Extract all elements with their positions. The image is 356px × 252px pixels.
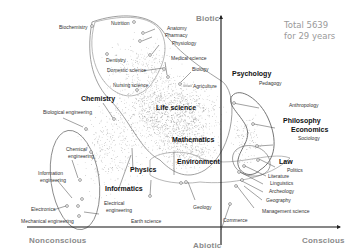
label-mathematics: Mathematics bbox=[172, 136, 214, 143]
label-commerce: Commerce bbox=[223, 218, 247, 223]
label-chemical-engineering-line1: Chemical bbox=[66, 147, 87, 152]
axis-label-nonconscious: Nonconscious bbox=[29, 237, 87, 245]
label-mechanical-engineering: Mechanical engineering bbox=[21, 219, 74, 224]
label-information-engineering-line2: engineering bbox=[40, 178, 66, 183]
label-dentistry: Dentistry bbox=[106, 58, 126, 63]
label-life-science: Life science bbox=[156, 104, 196, 111]
label-economics: Economics bbox=[291, 126, 328, 133]
label-physics: Physics bbox=[130, 166, 156, 173]
label-medical-science: Medical science bbox=[171, 56, 207, 61]
axis-label-conscious: Conscious bbox=[302, 237, 345, 245]
label-information-engineering-line1: Information bbox=[38, 171, 63, 176]
label-biological-engineering: Biological engineering bbox=[43, 110, 92, 115]
label-archeology: Archeology bbox=[269, 189, 294, 194]
label-nursing-science: Nursing science bbox=[113, 83, 149, 88]
label-environment: Environment bbox=[177, 158, 220, 165]
label-physiology: Physiology bbox=[172, 41, 196, 46]
label-geology: Geology bbox=[193, 205, 212, 210]
label-geography: Geography bbox=[266, 198, 291, 203]
label-linguistics: Linguistics bbox=[270, 181, 293, 186]
label-anthropology: Anthropology bbox=[289, 103, 318, 108]
axis-label-biotic: Biotic bbox=[196, 15, 219, 23]
label-politics: Politics bbox=[287, 168, 303, 173]
label-law: Law bbox=[279, 158, 293, 165]
label-electronics: Electronics bbox=[31, 207, 55, 212]
label-biochemistry: Biochemistry bbox=[59, 25, 88, 30]
label-management-science: Management science bbox=[262, 209, 310, 214]
label-domestic-science: Domestic science bbox=[107, 68, 146, 73]
label-electrical-engineering-line1: Electrical bbox=[104, 201, 124, 206]
total-count-note: Total 5639 for 29 years bbox=[284, 20, 335, 41]
knowledge-map-diagram: Total 5639 for 29 years Biotic Abiotic N… bbox=[0, 0, 356, 252]
label-electrical-engineering-line2: engineering bbox=[106, 208, 132, 213]
label-sociology: Sociology bbox=[298, 136, 320, 141]
label-chemical-engineering-line2: engineering bbox=[68, 154, 94, 159]
label-psychology: Psychology bbox=[232, 70, 271, 77]
label-informatics: Informatics bbox=[105, 185, 143, 192]
label-philosophy: Philosophy bbox=[283, 117, 321, 124]
total-period: for 29 years bbox=[284, 31, 335, 42]
label-nutrition: Nutrition bbox=[111, 21, 130, 26]
axis-label-abiotic: Abiotic bbox=[193, 242, 222, 250]
label-agriculture: Agriculture bbox=[193, 84, 217, 89]
label-earth-science: Earth science bbox=[131, 219, 161, 224]
label-chemistry: Chemistry bbox=[81, 95, 115, 102]
label-anatomy: Anatomy bbox=[167, 26, 187, 31]
total-count: Total 5639 bbox=[284, 20, 335, 31]
label-pedagogy: Pedagogy bbox=[259, 81, 282, 86]
label-biology: Biology bbox=[192, 67, 208, 72]
label-literature: Literature bbox=[268, 174, 289, 179]
scatter-points bbox=[75, 32, 263, 199]
label-pharmacy: Pharmacy bbox=[165, 33, 188, 38]
